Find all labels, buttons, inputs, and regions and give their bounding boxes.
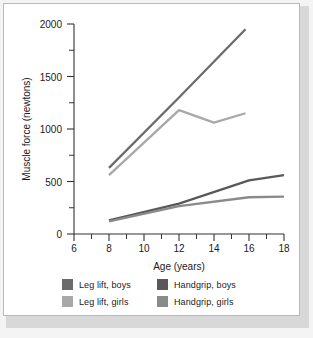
x-tick-label-16: 16 <box>243 243 255 254</box>
legend-entry-leg-lift-boys: Leg lift, boys <box>62 279 157 290</box>
legend-entry-handgrip-boys: Handgrip, boys <box>157 279 236 290</box>
plot-background <box>4 4 299 315</box>
legend-row-boys: Leg lift, boys Handgrip, boys <box>62 276 292 293</box>
x-tick-label-14: 14 <box>208 243 220 254</box>
screenshot-root: 0 500 1000 1500 2000 Muscle force (newto… <box>0 0 313 338</box>
y-tick-label-1500: 1500 <box>40 72 63 83</box>
x-axis-title: Age (years) <box>153 261 205 272</box>
y-tick-label-500: 500 <box>45 177 62 188</box>
legend-swatch-icon-leg-lift-girls <box>62 296 73 307</box>
chart-legend: Leg lift, boys Handgrip, boys Leg lift, … <box>62 276 292 316</box>
figure-frame: 0 500 1000 1500 2000 Muscle force (newto… <box>3 3 300 316</box>
x-tick-label-12: 12 <box>173 243 185 254</box>
legend-entry-handgrip-girls: Handgrip, girls <box>157 296 234 307</box>
legend-swatch-icon-leg-lift-boys <box>62 279 73 290</box>
x-tick-label-8: 8 <box>106 243 112 254</box>
legend-entry-leg-lift-girls: Leg lift, girls <box>62 296 157 307</box>
y-tick-label-1000: 1000 <box>40 124 63 135</box>
legend-swatch-icon-handgrip-girls <box>157 296 168 307</box>
x-tick-label-18: 18 <box>278 243 290 254</box>
legend-row-girls: Leg lift, girls Handgrip, girls <box>62 293 292 310</box>
legend-label-handgrip-boys: Handgrip, boys <box>174 280 236 290</box>
legend-label-handgrip-girls: Handgrip, girls <box>174 297 234 307</box>
y-axis-title: Muscle force (newtons) <box>21 77 32 180</box>
y-tick-label-0: 0 <box>56 229 62 240</box>
muscle-force-line-chart: 0 500 1000 1500 2000 Muscle force (newto… <box>4 4 299 315</box>
legend-label-leg-lift-girls: Leg lift, girls <box>79 297 129 307</box>
legend-label-leg-lift-boys: Leg lift, boys <box>79 280 131 290</box>
x-tick-label-6: 6 <box>71 243 77 254</box>
x-tick-label-10: 10 <box>138 243 150 254</box>
legend-swatch-icon-handgrip-boys <box>157 279 168 290</box>
y-tick-label-2000: 2000 <box>40 19 63 30</box>
